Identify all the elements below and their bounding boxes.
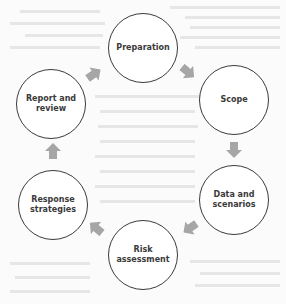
arrow-down-left-icon bbox=[179, 217, 201, 239]
arrow-up-icon bbox=[45, 143, 61, 159]
cycle-diagram: Preparation Scope Data and scenarios Ris… bbox=[0, 0, 286, 304]
arrow-up-left-icon bbox=[85, 217, 108, 240]
arrow-up-right-icon bbox=[83, 63, 105, 85]
node-label: Scope bbox=[216, 95, 251, 105]
node-risk-assessment: Risk assessment bbox=[108, 220, 178, 290]
node-label: Preparation bbox=[112, 43, 173, 53]
node-label: Data and scenarios bbox=[209, 190, 260, 210]
node-data-and-scenarios: Data and scenarios bbox=[199, 165, 269, 235]
node-label: Risk assessment bbox=[112, 245, 173, 265]
node-scope: Scope bbox=[199, 65, 269, 135]
node-label: Report and review bbox=[22, 94, 80, 114]
node-report-and-review: Report and review bbox=[16, 69, 86, 139]
node-preparation: Preparation bbox=[108, 13, 178, 83]
arrow-down-right-icon bbox=[177, 61, 200, 84]
arrow-down-icon bbox=[226, 142, 242, 158]
node-label: Response strategies bbox=[26, 195, 80, 215]
node-response-strategies: Response strategies bbox=[18, 170, 88, 240]
